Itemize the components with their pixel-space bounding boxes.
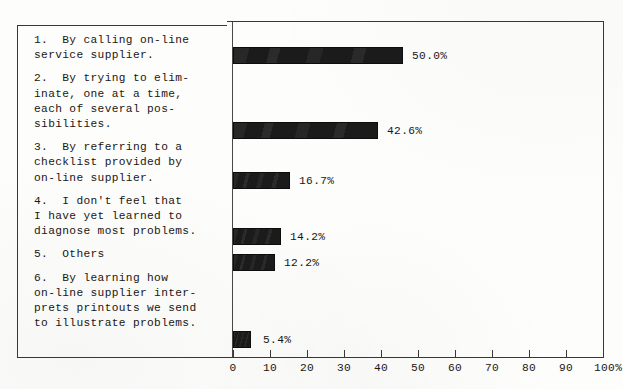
bar-5	[233, 254, 275, 271]
x-tick-mark	[603, 350, 604, 357]
x-tick-label: 10	[263, 362, 277, 374]
category-label-list: 1. By calling on-lineservice supplier.2.…	[34, 33, 228, 331]
category-label-box: 1. By calling on-lineservice supplier.2.…	[17, 25, 227, 358]
bar-4	[233, 228, 281, 245]
bar-6	[233, 331, 251, 348]
x-tick-mark	[344, 350, 345, 357]
category-label-3: 3. By referring to achecklist provided b…	[34, 140, 228, 186]
x-tick-mark	[492, 350, 493, 357]
category-label-line: 1. By calling on-line	[34, 33, 228, 48]
bar-3	[233, 172, 290, 189]
x-tick-label: 60	[448, 362, 462, 374]
bar-value-label: 14.2%	[290, 231, 325, 243]
bar-row: 14.2%	[233, 228, 325, 245]
bar-row: 42.6%	[233, 122, 422, 139]
category-label-line: service supplier.	[34, 48, 228, 63]
x-tick-label: 0	[229, 362, 236, 374]
bar-value-label: 5.4%	[263, 334, 291, 346]
x-tick-mark	[418, 350, 419, 357]
category-label-line: inate, one at a time,	[34, 87, 228, 102]
bar-value-label: 50.0%	[412, 50, 447, 62]
category-label-line: 6. By learning how	[34, 271, 228, 286]
x-tick-label: 30	[337, 362, 351, 374]
category-label-4: 4. I don't feel thatI have yet learned t…	[34, 194, 228, 240]
x-tick-mark	[381, 350, 382, 357]
bar-value-label: 16.7%	[299, 175, 334, 187]
x-tick-mark	[270, 350, 271, 357]
x-tick-label: 100%	[594, 362, 622, 374]
category-label-line: sibilities.	[34, 117, 228, 132]
bar-row: 50.0%	[233, 47, 447, 64]
category-label-line: checklist provided by	[34, 155, 228, 170]
category-label-line: 2. By trying to elim-	[34, 71, 228, 86]
x-tick-label: 40	[374, 362, 388, 374]
category-label-line: to illustrate problems.	[34, 316, 228, 331]
bar-1	[233, 47, 403, 64]
x-tick-mark	[529, 350, 530, 357]
x-tick-mark	[566, 350, 567, 357]
x-tick-label: 20	[300, 362, 314, 374]
category-label-line: 4. I don't feel that	[34, 194, 228, 209]
x-axis-line	[227, 357, 604, 358]
bar-2	[233, 122, 378, 139]
x-tick-label: 50	[411, 362, 425, 374]
bar-row: 16.7%	[233, 172, 334, 189]
x-tick-mark	[307, 350, 308, 357]
category-label-line: 5. Others	[34, 247, 228, 262]
plot-frame	[227, 21, 604, 358]
category-label-line: I have yet learned to	[34, 209, 228, 224]
bar-value-label: 42.6%	[387, 125, 422, 137]
category-label-line: each of several pos-	[34, 102, 228, 117]
category-label-line: diagnose most problems.	[34, 224, 228, 239]
bar-row: 5.4%	[233, 331, 291, 348]
category-label-5: 5. Others	[34, 247, 228, 262]
bar-row: 12.2%	[233, 254, 319, 271]
horizontal-bar-chart: 1. By calling on-lineservice supplier.2.…	[0, 0, 623, 389]
category-label-6: 6. By learning howon-line supplier inter…	[34, 271, 228, 332]
bar-value-label: 12.2%	[284, 257, 319, 269]
category-label-line: 3. By referring to a	[34, 140, 228, 155]
category-label-1: 1. By calling on-lineservice supplier.	[34, 33, 228, 63]
x-tick-label: 90	[559, 362, 573, 374]
category-label-line: prets printouts we send	[34, 301, 228, 316]
category-label-line: on-line supplier.	[34, 171, 228, 186]
x-tick-mark	[233, 350, 234, 357]
x-tick-label: 80	[522, 362, 536, 374]
category-label-line: on-line supplier inter-	[34, 286, 228, 301]
x-tick-label: 70	[485, 362, 499, 374]
y-axis-line	[232, 22, 233, 358]
category-label-2: 2. By trying to elim-inate, one at a tim…	[34, 71, 228, 132]
x-tick-mark	[455, 350, 456, 357]
